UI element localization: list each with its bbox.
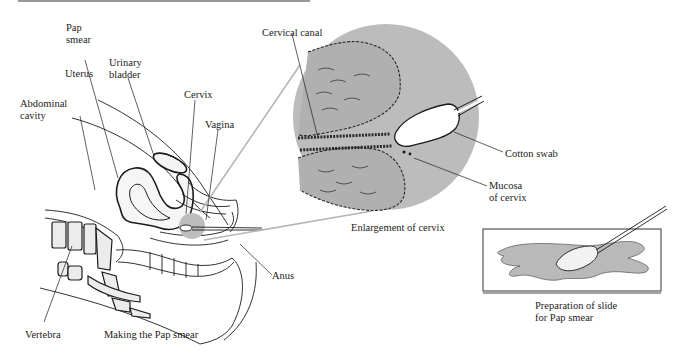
caption-slide-preparation: Preparation of slide for Pap smear xyxy=(535,300,617,324)
label-vagina: Vagina xyxy=(205,119,234,131)
label-cotton-swab: Cotton swab xyxy=(505,148,558,160)
glass-slide xyxy=(483,206,667,293)
label-vertebra: Vertebra xyxy=(25,329,61,341)
caption-enlargement-of-cervix: Enlargement of cervix xyxy=(351,222,445,234)
label-abdominal-cavity: Abdominal cavity xyxy=(20,98,67,122)
vertebrae xyxy=(52,222,150,318)
bladder-shape xyxy=(151,149,190,177)
caption-making-pap-smear: Making the Pap smear xyxy=(104,329,198,341)
label-pap-smear: Pap smear xyxy=(66,22,91,46)
label-mucosa-of-cervix: Mucosa of cervix xyxy=(489,180,527,204)
label-cervical-canal: Cervical canal xyxy=(262,27,322,39)
enlargement-circle xyxy=(293,24,484,210)
label-uterus: Uterus xyxy=(65,68,93,80)
label-urinary-bladder: Urinary bladder xyxy=(109,57,142,81)
label-anus: Anus xyxy=(272,270,294,282)
label-cervix: Cervix xyxy=(184,89,213,101)
